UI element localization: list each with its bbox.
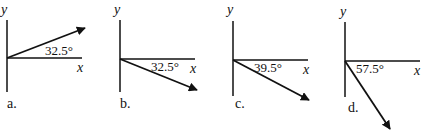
diagram-caption: b. bbox=[120, 97, 131, 111]
diagram-caption: a. bbox=[7, 97, 17, 111]
x-axis-label: x bbox=[77, 61, 83, 75]
y-axis-label: y bbox=[227, 3, 233, 17]
y-axis-label: y bbox=[1, 3, 7, 17]
x-axis-label: x bbox=[190, 62, 196, 76]
diagram-caption: d. bbox=[348, 101, 359, 115]
angle-label: 32.5° bbox=[151, 60, 179, 73]
angle-label: 32.5° bbox=[45, 44, 73, 57]
y-axis-label: y bbox=[340, 5, 346, 19]
angle-label: 57.5° bbox=[356, 62, 384, 75]
diagram-b bbox=[120, 20, 197, 92]
y-axis-label: y bbox=[114, 3, 120, 17]
angle-label: 39.5° bbox=[254, 61, 282, 74]
x-axis-label: x bbox=[414, 64, 420, 78]
x-axis-label: x bbox=[303, 63, 309, 77]
diagram-caption: c. bbox=[235, 97, 245, 111]
